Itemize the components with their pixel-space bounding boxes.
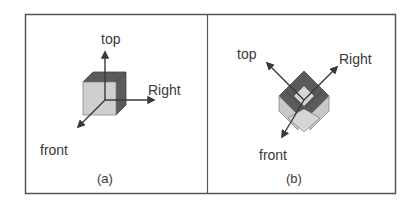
label-front-a: front: [40, 143, 68, 157]
label-top-a: top: [101, 32, 120, 46]
label-right-a: Right: [148, 83, 181, 97]
caption-b: (b): [286, 172, 302, 185]
label-front-b: front: [259, 148, 287, 162]
cube-front-face: [83, 82, 116, 115]
caption-a: (a): [97, 172, 113, 185]
figure-frame: [26, 15, 396, 194]
panel-b-cube: [279, 71, 329, 132]
label-right-b: Right: [339, 52, 372, 66]
label-top-b: top: [237, 47, 256, 61]
figure-canvas: [0, 0, 419, 207]
